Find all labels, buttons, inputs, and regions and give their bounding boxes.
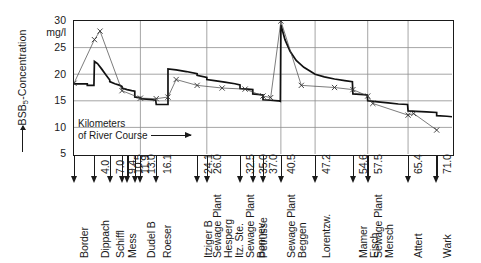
y-axis-title: BSB5-Concentration [16, 7, 30, 177]
x-tick-km-label-13: 40.5 [285, 154, 297, 174]
series-measured-marker-2 [97, 29, 102, 34]
x-tick-stem-10 [240, 156, 241, 176]
x-station-label-6: Dudel B [145, 221, 157, 258]
x-station-label-16-1: Mersch [383, 224, 395, 258]
x-tick-km-label-18: 71.0 [441, 154, 453, 174]
x-station-label-14: Lorentzw. [320, 214, 332, 258]
x-tick-marker-2 [107, 176, 113, 183]
x-tick-stem-7 [156, 156, 157, 176]
x-axis-title-arrow [151, 135, 191, 136]
series-simulated-line [74, 25, 452, 117]
x-tick-marker-10 [237, 176, 243, 183]
x-tick-stem-11 [253, 156, 254, 176]
x-station-label-0: Border [78, 227, 90, 258]
y-axis-tick-20: 20 [42, 68, 66, 80]
x-tick-km-label-6: 13.0 [145, 154, 157, 174]
x-tick-stem-17 [408, 156, 409, 176]
x-tick-stem-18 [436, 156, 437, 176]
x-tick-stem-0 [74, 156, 75, 176]
x-axis-title-line2-wrap: of River Course [78, 130, 191, 142]
x-tick-stem-15 [353, 156, 354, 176]
y-axis-tick-25: 25 [42, 41, 66, 53]
x-tick-km-label-9: 26.0 [211, 154, 223, 174]
x-tick-marker-11 [250, 176, 256, 183]
x-tick-stem-12 [263, 156, 264, 176]
series-measured-line [74, 21, 437, 130]
x-tick-marker-17 [405, 176, 411, 183]
x-tick-stem-4 [127, 156, 128, 176]
x-tick-marker-12 [260, 176, 266, 183]
x-station-label-11: Petrusse [257, 217, 269, 258]
x-tick-stem-13 [281, 156, 282, 176]
x-tick-marker-14 [312, 176, 318, 183]
series-measured-marker-7 [174, 77, 179, 82]
x-tick-stem-8 [197, 156, 198, 176]
y-axis-tick-10: 10 [42, 121, 66, 133]
series-measured-marker-21 [434, 127, 439, 132]
chart-root: BSB5-Concentration mg/l 51015202530 Kilo… [0, 0, 481, 263]
x-tick-km-label-7: 16.1 [161, 154, 173, 174]
x-tick-km-label-16: 57.5 [372, 154, 384, 174]
x-tick-stem-16 [367, 156, 368, 176]
y-axis-tick-30: 30 [42, 14, 66, 26]
x-tick-km-label-12: 37.0 [267, 154, 279, 174]
x-tick-stem-9 [207, 156, 208, 176]
x-axis-title: Kilometers of River Course [78, 118, 191, 142]
y-axis-unit-label: mg/l [34, 26, 66, 38]
y-axis-tick-15: 15 [42, 94, 66, 106]
x-tick-stem-1 [94, 156, 95, 176]
x-tick-stem-2 [110, 156, 111, 176]
x-tick-stem-5 [135, 156, 136, 176]
x-station-label-2: Schiffl [114, 230, 126, 258]
x-station-label-18: Wark [441, 234, 453, 258]
x-axis-title-line2: of River Course [78, 130, 147, 141]
x-station-label-3: Mess [126, 233, 138, 258]
x-tick-stem-14 [315, 156, 316, 176]
x-tick-marker-13 [278, 176, 284, 183]
x-station-label-13-1: Beggen [296, 222, 308, 258]
x-tick-marker-9 [204, 176, 210, 183]
x-tick-marker-8 [194, 176, 200, 183]
x-tick-km-label-14: 47.2 [320, 154, 332, 174]
x-tick-marker-6 [137, 176, 143, 183]
x-station-label-7: Roeser [161, 225, 173, 258]
x-tick-marker-15 [350, 176, 356, 183]
x-tick-km-label-10: 32.5 [244, 154, 256, 174]
x-tick-marker-0 [71, 176, 77, 183]
x-tick-km-label-2: 7.0 [114, 160, 126, 174]
x-tick-km-label-17: 65.4 [412, 154, 424, 174]
x-tick-stem-6 [140, 156, 141, 176]
x-tick-marker-16 [365, 176, 371, 183]
y-axis-tick-5: 5 [42, 147, 66, 159]
series-measured-marker-1 [92, 37, 97, 42]
x-station-label-17: Attert [412, 234, 424, 259]
x-tick-marker-7 [153, 176, 159, 183]
x-tick-marker-4 [124, 176, 130, 183]
x-tick-stem-3 [122, 156, 123, 176]
x-tick-marker-18 [433, 176, 439, 183]
x-axis-title-line1: Kilometers [78, 118, 191, 130]
y-axis-title-text: BSB5-Concentration [16, 30, 28, 126]
y-axis-title-arrow [22, 126, 23, 152]
x-station-label-1: Dippach [99, 220, 111, 258]
x-tick-marker-1 [91, 176, 97, 183]
